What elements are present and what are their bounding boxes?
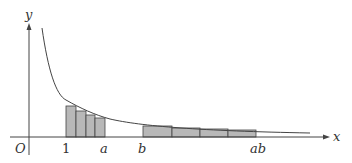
rectangle — [95, 118, 105, 137]
x-axis-label: x — [333, 129, 341, 144]
rectangle — [66, 106, 76, 137]
rectangle — [143, 126, 172, 137]
tick-label-b: b — [138, 141, 146, 156]
diagram-canvas: y x O 1 a b ab — [0, 0, 352, 163]
y-axis-label: y — [24, 7, 33, 22]
tick-label-a: a — [100, 141, 108, 156]
rectangle — [86, 115, 95, 137]
left-rectangles — [66, 106, 105, 137]
tick-label-ab: ab — [250, 141, 266, 156]
x-axis-arrow-icon — [323, 135, 330, 140]
rectangle — [76, 111, 86, 137]
y-axis-arrow-icon — [27, 23, 32, 30]
origin-label: O — [15, 141, 26, 156]
tick-label-1: 1 — [62, 141, 70, 156]
